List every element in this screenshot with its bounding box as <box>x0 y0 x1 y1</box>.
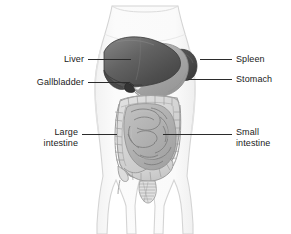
label-large-intestine: Largeintestine <box>44 127 78 148</box>
label-spleen: Spleen <box>236 54 265 65</box>
rectum-region <box>139 181 156 203</box>
label-gallbladder: Gallbladder <box>37 77 84 88</box>
anatomy-illustration <box>0 0 291 234</box>
label-liver: Liver <box>64 54 84 65</box>
label-stomach: Stomach <box>236 74 272 85</box>
anatomy-figure: Liver Gallbladder Spleen Stomach Largein… <box>0 0 291 234</box>
label-small-intestine: Smallintestine <box>236 127 270 148</box>
